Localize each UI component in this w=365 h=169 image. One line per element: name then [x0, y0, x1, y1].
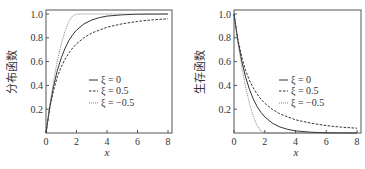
right-legend-xi-0.5: ξ = 0.5: [291, 85, 319, 97]
right-legend: ξ = 0 ξ = 0.5 ξ = −0.5: [279, 74, 324, 109]
left-legend-xi-0.5: ξ = 0.5: [101, 85, 129, 97]
y-tick-label: 0.4: [31, 80, 44, 91]
x-tick-label: 8: [166, 136, 171, 147]
cdf-chart: 0.20.40.60.81.0 02468 分布函数 x ξ = 0 ξ = 0…: [6, 9, 172, 159]
y-tick-label: 0.4: [219, 80, 232, 91]
y-tick-label: 1.0: [31, 9, 44, 20]
left-y-axis-label: 分布函数: [6, 50, 19, 94]
x-tick-label: 0: [232, 136, 237, 147]
x-tick-label: 6: [324, 136, 329, 147]
x-tick-label: 2: [262, 136, 267, 147]
chart-canvas: 0.20.40.60.81.0 02468 分布函数 x ξ = 0 ξ = 0…: [0, 0, 365, 169]
x-tick-label: 6: [135, 136, 140, 147]
right-legend-xi-neg0.5: ξ = −0.5: [291, 97, 324, 109]
y-tick-label: 1.0: [219, 9, 232, 20]
y-tick-label: 0.8: [31, 32, 44, 43]
x-tick-label: 8: [355, 136, 360, 147]
x-tick-label: 0: [44, 136, 49, 147]
y-tick-label: 0.6: [31, 56, 44, 67]
left-legend: ξ = 0 ξ = 0.5 ξ = −0.5: [89, 74, 134, 109]
right-y-axis-label: 生存函数: [193, 50, 207, 94]
left-legend-xi-neg0.5: ξ = −0.5: [101, 97, 134, 109]
y-tick-label: 0.2: [219, 104, 232, 115]
y-tick-label: 0.2: [31, 104, 44, 115]
survival-chart: 0.20.40.60.81.0 02468 生存函数 x ξ = 0 ξ = 0…: [193, 9, 361, 159]
x-tick-label: 2: [74, 136, 79, 147]
y-tick-label: 0.8: [219, 32, 232, 43]
left-x-axis-label: x: [104, 146, 110, 158]
series-line: [234, 14, 357, 128]
y-tick-label: 0.6: [219, 56, 232, 67]
left-plot-frame: [46, 10, 172, 133]
right-x-axis-label: x: [293, 146, 299, 158]
